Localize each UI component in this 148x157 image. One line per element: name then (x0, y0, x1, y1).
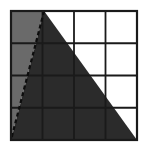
figure-container (0, 0, 148, 157)
grid-triangle-figure (0, 0, 148, 157)
